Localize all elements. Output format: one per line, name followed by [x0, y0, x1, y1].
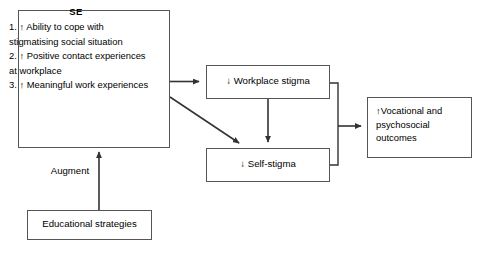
diagram-canvas: SE 1. ↑ Ability to cope with stigmatisin…: [0, 0, 496, 256]
node-se-items: 1. ↑ Ability to cope with stigmatising s…: [9, 20, 151, 93]
node-self-stigma-label: ↓ Self-stigma: [206, 158, 330, 169]
node-outcomes-label: ↑Vocational and psychosocial outcomes: [376, 104, 472, 145]
edge-se-to-self-stigma: [170, 97, 239, 143]
node-educational-strategies-label: Educational strategies: [27, 218, 152, 229]
edge-label-augment: Augment: [42, 165, 98, 176]
node-workplace-stigma-label: ↓ Workplace stigma: [206, 75, 330, 86]
node-se-title: SE: [0, 6, 152, 17]
edge-stigma-to-outcomes: [330, 83, 361, 165]
